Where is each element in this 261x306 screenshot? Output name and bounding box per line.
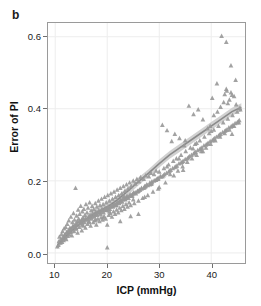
y-tick-label: 0.0: [28, 248, 41, 259]
y-tick-label: 0.6: [28, 30, 41, 41]
figure-panel-b: b 0.00.20.40.6 10203040 ICP (mmHg) Error…: [0, 0, 261, 306]
y-axis-title: Error of PI: [8, 67, 20, 187]
x-tick-label: 20: [102, 269, 113, 280]
scatter-points: [48, 23, 245, 263]
x-axis-title: ICP (mmHg): [47, 284, 246, 296]
x-axis-tick-labels: 10203040: [47, 269, 246, 283]
x-tick-mark: [212, 264, 213, 268]
x-tick-mark: [107, 264, 108, 268]
plot-area: [47, 22, 246, 264]
y-tick-label: 0.4: [28, 103, 41, 114]
x-tick-label: 30: [154, 269, 165, 280]
x-tick-label: 10: [49, 269, 60, 280]
panel-label: b: [12, 8, 19, 22]
x-tick-mark: [159, 264, 160, 268]
y-tick-label: 0.2: [28, 176, 41, 187]
x-tick-label: 40: [207, 269, 218, 280]
y-axis-tick-labels: 0.00.20.40.6: [0, 22, 41, 264]
x-tick-mark: [54, 264, 55, 268]
